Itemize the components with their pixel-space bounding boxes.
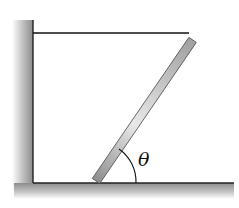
wall xyxy=(12,20,33,190)
floor xyxy=(14,183,234,199)
angle-label: θ xyxy=(138,148,150,170)
diagram-canvas: θ xyxy=(0,0,239,208)
angle-arc xyxy=(119,149,136,183)
